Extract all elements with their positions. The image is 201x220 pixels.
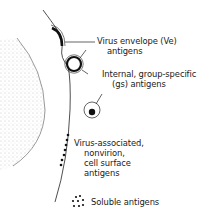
soluble-antigen-dots bbox=[72, 195, 84, 207]
label-internal-line2: (gs) antigens bbox=[102, 79, 196, 89]
cell-membrane bbox=[43, 10, 70, 202]
label-internal: Internal, group-specific (gs) antigens bbox=[102, 69, 196, 89]
virion-ring-icon bbox=[67, 57, 81, 71]
label-soluble: Soluble antigens bbox=[91, 197, 159, 207]
antigen-diagram bbox=[0, 0, 201, 220]
label-nonvirion-line3: cell surface bbox=[74, 158, 144, 168]
label-nonvirion-line2: nonvirion, bbox=[74, 148, 144, 158]
label-envelope: Virus envelope (Ve) antigens bbox=[97, 36, 177, 56]
label-nonvirion-line1: Virus-associated, bbox=[74, 138, 144, 148]
label-nonvirion-line4: antigens bbox=[74, 168, 144, 178]
label-nonvirion: Virus-associated, nonvirion, cell surfac… bbox=[74, 138, 144, 178]
stippled-cytoplasm bbox=[0, 38, 45, 170]
label-envelope-line1: Virus envelope (Ve) bbox=[97, 36, 177, 46]
label-internal-line1: Internal, group-specific bbox=[102, 69, 196, 79]
label-envelope-line2: antigens bbox=[97, 46, 177, 56]
